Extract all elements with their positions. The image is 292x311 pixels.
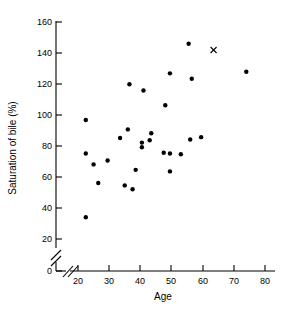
- data-point: [126, 127, 130, 131]
- data-point: [199, 135, 203, 139]
- plot-area: 160 140 120 100 80 60 40 20 0 20 30 40 5…: [0, 0, 292, 311]
- data-point: [130, 187, 134, 191]
- data-points-layer: [84, 42, 249, 220]
- data-point: [105, 158, 109, 162]
- data-point: [147, 138, 151, 142]
- y-tick-label: 120: [37, 79, 52, 89]
- data-point: [123, 183, 127, 187]
- x-tick-label: 80: [260, 276, 270, 286]
- data-point: [84, 151, 88, 155]
- y-tick-label: 60: [42, 172, 52, 182]
- x-tick-label: 30: [104, 276, 114, 286]
- data-point: [149, 131, 153, 135]
- data-point: [140, 145, 144, 149]
- scatter-chart-figure: 160 140 120 100 80 60 40 20 0 20 30 40 5…: [0, 0, 292, 311]
- x-axis-tick-labels: 20 30 40 50 60 70 80: [73, 276, 270, 286]
- data-point: [162, 151, 166, 155]
- y-axis-tick-labels: 160 140 120 100 80 60 40 20 0: [37, 17, 52, 276]
- y-tick-label: 40: [42, 203, 52, 213]
- data-point: [163, 103, 167, 107]
- data-point: [84, 118, 88, 122]
- data-point: [168, 151, 172, 155]
- y-axis-break-upper: [51, 250, 61, 260]
- data-point: [118, 136, 122, 140]
- data-point: [84, 215, 88, 219]
- data-point: [96, 181, 100, 185]
- data-point: [127, 82, 131, 86]
- y-tick-label: 100: [37, 110, 52, 120]
- y-tick-label: 160: [37, 17, 52, 27]
- x-tick-label: 60: [198, 276, 208, 286]
- data-point: [168, 169, 172, 173]
- data-point: [91, 162, 95, 166]
- y-axis-ticks: [56, 22, 62, 271]
- data-point: [190, 77, 194, 81]
- data-point: [188, 137, 192, 141]
- y-tick-label: 20: [42, 234, 52, 244]
- data-point: [133, 168, 137, 172]
- x-tick-label: 40: [135, 276, 145, 286]
- data-point: [186, 42, 190, 46]
- y-tick-label: 140: [37, 48, 52, 58]
- data-point: [168, 71, 172, 75]
- y-tick-label: 0: [47, 266, 52, 276]
- x-axis-label: Age: [154, 291, 172, 302]
- data-point: [244, 70, 248, 74]
- x-tick-label: 70: [229, 276, 239, 286]
- x-tick-label: 20: [73, 276, 83, 286]
- y-tick-label: 80: [42, 141, 52, 151]
- data-point: [141, 88, 145, 92]
- x-axis-ticks: [78, 265, 265, 271]
- data-point-cross: [211, 47, 217, 53]
- data-point: [179, 152, 183, 156]
- data-point: [140, 140, 144, 144]
- x-tick-label: 50: [166, 276, 176, 286]
- y-axis-label: Saturation of bile (%): [7, 101, 18, 194]
